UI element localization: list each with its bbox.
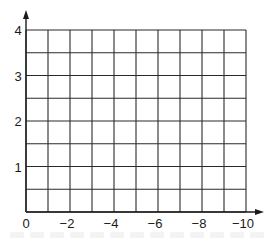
x-tick-label: −8: [192, 216, 207, 231]
y-tick-label: 4: [14, 23, 21, 38]
x-axis-arrow-icon: [255, 209, 264, 215]
scan-bleedthrough-artifact: [10, 232, 270, 238]
x-tick-label: 0: [22, 216, 29, 231]
x-tick-labels: 0−2−4−6−8−10: [22, 216, 254, 231]
y-tick-label: 2: [14, 114, 21, 129]
x-tick-label: −10: [232, 216, 254, 231]
x-tick-label: −4: [104, 216, 119, 231]
x-tick-label: −6: [148, 216, 163, 231]
y-tick-labels: 1234: [14, 23, 21, 175]
graph-grid-chart: 0−2−4−6−8−10 1234: [0, 0, 278, 241]
axes: [23, 10, 264, 215]
y-tick-label: 1: [14, 160, 21, 175]
y-tick-label: 3: [14, 69, 21, 84]
grid-lines: [26, 30, 246, 212]
x-tick-label: −2: [60, 216, 75, 231]
y-axis-arrow-icon: [23, 10, 29, 19]
